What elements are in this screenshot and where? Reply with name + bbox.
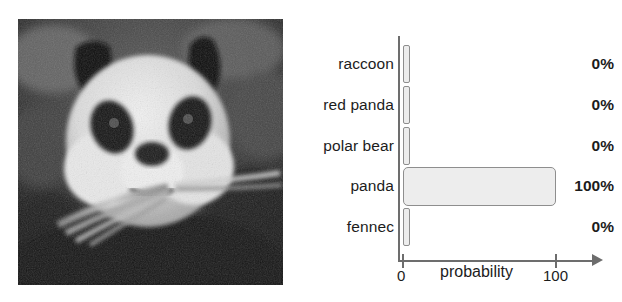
- x-axis-line: [398, 260, 598, 262]
- bar-polar-bear: [403, 127, 410, 165]
- bar-fennec: [403, 208, 410, 246]
- value-label-polar-bear: 0%: [552, 138, 614, 154]
- bar-panda: [403, 167, 556, 206]
- chart-row-panda: panda 100%: [300, 166, 622, 206]
- category-label-raccoon: raccoon: [264, 56, 394, 72]
- x-tick-label-100: 100: [543, 268, 568, 283]
- value-label-red-panda: 0%: [552, 97, 614, 113]
- bar-raccoon: [403, 45, 410, 83]
- chart-row-raccoon: raccoon 0%: [300, 44, 622, 84]
- x-tick-label-0: 0: [397, 268, 405, 283]
- category-label-polar-bear: polar bear: [264, 138, 394, 154]
- chart-row-polar-bear: polar bear 0%: [300, 126, 622, 166]
- chart-row-fennec: fennec 0%: [300, 207, 622, 247]
- panda-photograph: [18, 19, 283, 285]
- chart-row-red-panda: red panda 0%: [300, 85, 622, 125]
- category-label-fennec: fennec: [264, 219, 394, 235]
- x-axis-arrow-icon: [592, 254, 603, 266]
- value-label-fennec: 0%: [552, 219, 614, 235]
- category-label-panda: panda: [264, 178, 394, 194]
- value-label-panda: 100%: [552, 178, 614, 194]
- bar-red-panda: [403, 86, 410, 124]
- value-label-raccoon: 0%: [552, 56, 614, 72]
- prediction-bar-chart: 0 100 probability raccoon 0% red panda 0…: [300, 0, 622, 302]
- x-axis-title: probability: [440, 264, 513, 280]
- x-tick-mark-100: [555, 254, 557, 268]
- panda-image-svg: [18, 19, 283, 285]
- x-tick-mark-0: [402, 254, 404, 268]
- category-label-red-panda: red panda: [264, 97, 394, 113]
